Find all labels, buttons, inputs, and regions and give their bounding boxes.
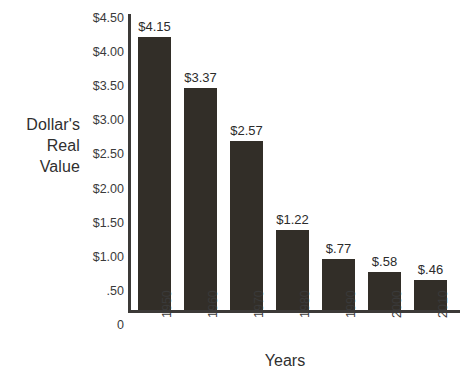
y-axis-title: Dollar's Real Value xyxy=(8,114,80,177)
x-tick-label: 2010 xyxy=(437,290,450,318)
y-tick-label: $2.00 xyxy=(74,183,124,196)
y-tick-label: $4.50 xyxy=(74,12,124,25)
bar-chart: Dollar's Real Value $4.50$4.00$3.50$3.00… xyxy=(0,0,470,382)
y-tick-label: $3.50 xyxy=(74,80,124,93)
x-tick-label: 1980 xyxy=(299,290,312,318)
x-tick-label: 1960 xyxy=(207,290,220,318)
y-axis-title-line-2: Real xyxy=(8,135,80,156)
y-tick-label: $4.00 xyxy=(74,46,124,59)
bar xyxy=(138,37,171,310)
bar-value-label: $1.22 xyxy=(263,213,323,226)
y-axis-tick-labels: $4.50$4.00$3.50$3.00$2.50$2.00$1.50$1.00… xyxy=(74,0,124,382)
y-tick-label: $1.00 xyxy=(74,251,124,264)
bar-value-label: $.46 xyxy=(401,263,461,276)
plot-area: $4.15$3.37$2.57$1.22$.77$.58$.46 xyxy=(128,14,458,312)
y-tick-label: .50 xyxy=(74,285,124,298)
bar xyxy=(230,141,263,310)
y-tick-label: $3.00 xyxy=(74,114,124,127)
y-tick-label: $2.50 xyxy=(74,148,124,161)
y-tick-label: 0 xyxy=(74,319,124,332)
x-tick-label: 1970 xyxy=(253,290,266,318)
bar-value-label: $2.57 xyxy=(217,124,277,137)
bar-value-label: $.77 xyxy=(309,242,369,255)
x-tick-label: 2000 xyxy=(391,290,404,318)
bars-layer: $4.15$3.37$2.57$1.22$.77$.58$.46 xyxy=(128,14,458,312)
x-tick-label: 1950 xyxy=(161,290,174,318)
bar-value-label: $3.37 xyxy=(171,71,231,84)
y-tick-label: $1.50 xyxy=(74,217,124,230)
x-tick-label: 1990 xyxy=(345,290,358,318)
bar-value-label: $4.15 xyxy=(125,20,185,33)
x-axis-title: Years xyxy=(225,352,345,370)
y-axis-title-line-3: Value xyxy=(8,156,80,177)
y-axis-title-line-1: Dollar's xyxy=(8,114,80,135)
bar xyxy=(184,88,217,310)
